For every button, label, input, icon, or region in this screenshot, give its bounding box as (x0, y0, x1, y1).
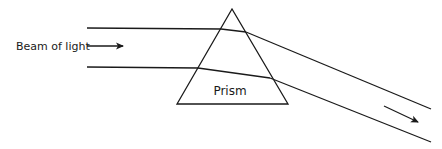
incident-beam-top (87, 28, 221, 29)
refracted-beam-top (221, 29, 246, 32)
refracted-beam-bottom (198, 68, 270, 78)
emergent-beam-top (246, 32, 431, 109)
beam-of-light-label: Beam of light (16, 40, 90, 53)
emergent-direction-arrow (384, 106, 418, 122)
emergent-beam-bottom (270, 78, 431, 142)
prism-diagram: Beam of light Prism (0, 0, 442, 149)
prism-label: Prism (213, 84, 246, 98)
incident-beam-bottom (87, 67, 198, 68)
